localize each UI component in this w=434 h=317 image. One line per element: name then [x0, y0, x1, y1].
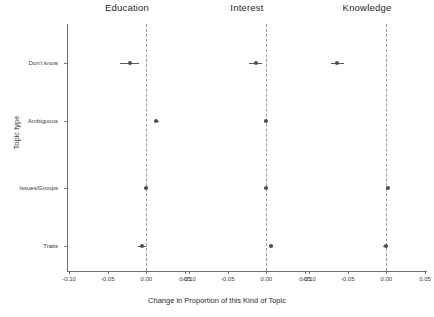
data-point [140, 244, 144, 248]
x-axis-tick [266, 271, 267, 274]
zero-reference-line-interest [266, 24, 267, 271]
data-point [384, 244, 388, 248]
x-axis-tick-label: 0.00 [260, 276, 272, 282]
x-axis-line-interest [187, 271, 307, 272]
y-axis-label-traits: Traits [43, 242, 58, 250]
data-point [269, 244, 273, 248]
x-axis-tick [146, 271, 147, 274]
x-axis-line-education [67, 271, 187, 272]
y-axis-tick [64, 246, 67, 247]
x-axis-tick [185, 271, 186, 274]
y-axis-tick [64, 188, 67, 189]
x-axis-tick-label: -0.10 [182, 276, 196, 282]
y-axis-tick-labels: Don't knowAmbiguousIssues/GroupsTraits [0, 0, 64, 317]
data-point [264, 186, 268, 190]
x-axis-line-knowledge [307, 271, 427, 272]
x-axis-tick [69, 271, 70, 274]
x-axis-tick [108, 271, 109, 274]
panel-title-interest: Interest [187, 2, 307, 13]
y-axis-label-ambiguous: Ambiguous [28, 117, 58, 125]
x-axis-tick [305, 271, 306, 274]
x-axis-tick-label: -0.05 [341, 276, 355, 282]
x-axis-tick [189, 271, 190, 274]
x-axis-title: Change in Proportion of this Kind of Top… [0, 296, 434, 305]
x-axis-tick-label: 0.05 [419, 276, 431, 282]
x-axis-tick [348, 271, 349, 274]
x-axis-tick [386, 271, 387, 274]
panel-knowledge: Knowledge [307, 0, 427, 317]
data-point [386, 186, 390, 190]
x-axis-tick-label: -0.10 [62, 276, 76, 282]
data-point [154, 119, 158, 123]
panel-education: Education [67, 0, 187, 317]
data-point [254, 61, 258, 65]
data-point [144, 186, 148, 190]
chart-canvas: Topic type Don't knowAmbiguousIssues/Gro… [0, 0, 434, 317]
x-axis-tick-label: 0.00 [380, 276, 392, 282]
y-axis-tick [64, 121, 67, 122]
panel-title-education: Education [67, 2, 187, 13]
x-axis-tick [309, 271, 310, 274]
panel-interest: Interest [187, 0, 307, 317]
x-axis-tick-label: -0.10 [302, 276, 316, 282]
y-axis-label-issues-groups: Issues/Groups [19, 184, 58, 192]
x-axis-tick [425, 271, 426, 274]
data-point [264, 119, 268, 123]
data-point [335, 61, 339, 65]
zero-reference-line-knowledge [386, 24, 387, 271]
panel-title-knowledge: Knowledge [307, 2, 427, 13]
x-axis-tick-label: -0.05 [221, 276, 235, 282]
y-axis-tick [64, 63, 67, 64]
x-axis-tick-label: -0.05 [101, 276, 115, 282]
x-axis-tick [228, 271, 229, 274]
zero-reference-line-education [146, 24, 147, 271]
data-point [128, 61, 132, 65]
x-axis-tick-label: 0.00 [140, 276, 152, 282]
y-axis-label-don-t-know: Don't know [29, 59, 59, 67]
